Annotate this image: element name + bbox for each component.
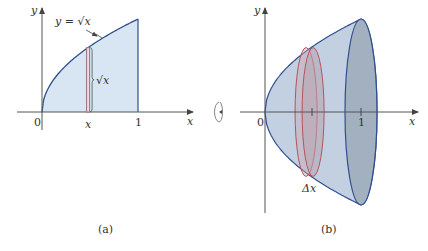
strip-x-label: x: [85, 118, 92, 131]
curve-label-arrow: [86, 30, 97, 36]
rotate-about-x-axis-icon: [215, 102, 223, 122]
origin-label: 0: [257, 116, 264, 129]
figure: y x 0 1 x y = √x √x (a) y x 0 1 Δx (b): [0, 0, 428, 251]
disk-thickness-label: Δx: [301, 182, 317, 195]
panel-a: y x 0 1 x y = √x √x (a): [17, 4, 194, 236]
caption-a: (a): [98, 223, 113, 236]
y-axis-label: y: [30, 4, 38, 17]
tick-one-label: 1: [358, 116, 365, 129]
x-axis-label: x: [187, 115, 194, 128]
tick-one-label: 1: [135, 116, 142, 129]
caption-b: (b): [321, 223, 337, 236]
panel-b: y x 0 1 Δx (b): [240, 4, 418, 236]
approximating-strip: [87, 48, 90, 112]
y-axis-label: y: [253, 4, 261, 17]
curve-equation-label: y = √x: [54, 15, 91, 28]
height-label: √x: [96, 74, 110, 87]
x-axis-label: x: [409, 115, 416, 128]
origin-label: 0: [34, 116, 41, 129]
